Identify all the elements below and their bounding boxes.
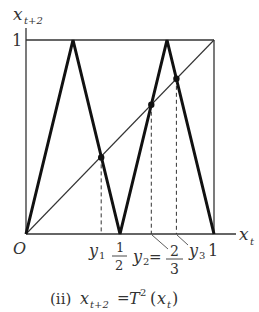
y-axis-label: x [13,4,23,24]
x-tick-one: 1 [208,241,218,260]
fixed-point-y3 [173,76,179,82]
caption-paren-close: ) [172,289,178,308]
two-thirds-numerator: 2 [170,243,179,259]
caption-lhs-subscript: t+2 [90,299,109,310]
y-tick-one: 1 [12,31,22,50]
half-numerator: 1 [116,240,124,255]
y1-label: y [88,241,99,260]
caption-index: (ii) [50,290,71,308]
caption-lhs-var: x [80,289,89,308]
diagonal-line [26,40,214,234]
y-axis-label-subscript: t+2 [24,15,43,26]
y1-label-subscript: 1 [99,250,105,261]
y2-leader-line [152,235,168,249]
y3-label: y [188,241,199,260]
y3-label-subscript: 3 [199,250,205,261]
fixed-point-y2 [148,102,154,108]
fixed-point-y1 [98,154,104,160]
y2-label: y [132,247,143,266]
caption-paren-open: ( [150,289,156,308]
tent-map-diagram: x t+2 1 x t O y 1 1 2 y 2 = 2 3 y 3 1 (i… [0,0,259,312]
two-thirds-denominator: 3 [170,261,179,277]
x-axis-label-subscript: t [250,236,255,247]
caption-arg-var: x [157,289,166,308]
caption-equals: = [117,289,130,307]
y2-equals: = [149,248,162,266]
caption-power: 2 [140,287,146,298]
half-denominator: 2 [115,258,123,273]
origin-label: O [13,239,26,258]
x-axis-label: x [239,224,249,244]
